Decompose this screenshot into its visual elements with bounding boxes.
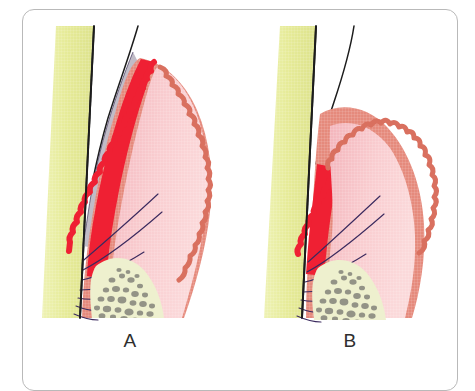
panel-label-b: B <box>320 330 380 352</box>
panel-b <box>258 18 458 328</box>
panel-b-illustration <box>258 18 458 328</box>
panel-a <box>34 18 234 328</box>
panel-a-illustration <box>34 18 234 328</box>
panel-label-a: A <box>100 330 160 352</box>
